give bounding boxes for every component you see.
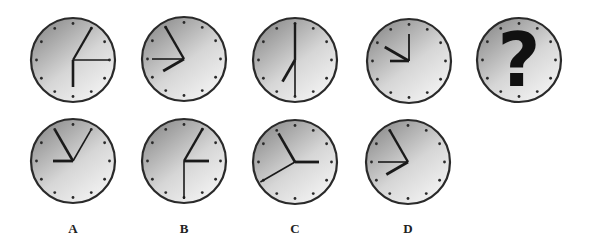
hour-tick bbox=[325, 179, 328, 182]
hour-tick bbox=[486, 40, 489, 43]
hour-tick bbox=[518, 22, 521, 25]
hour-tick bbox=[151, 141, 154, 144]
hour-tick bbox=[312, 129, 315, 132]
hour-tick bbox=[536, 27, 539, 30]
hour-tick bbox=[325, 40, 328, 43]
option-label-c[interactable]: C bbox=[280, 221, 310, 237]
hour-tick bbox=[201, 191, 204, 194]
hour-tick bbox=[408, 96, 411, 99]
hour-tick bbox=[407, 124, 410, 127]
hour-tick bbox=[151, 76, 154, 79]
clock-face-icon bbox=[139, 116, 229, 206]
hour-tick bbox=[201, 26, 204, 29]
hour-tick bbox=[443, 161, 446, 164]
clock-face-icon bbox=[250, 117, 340, 207]
hour-tick bbox=[257, 161, 260, 164]
hour-tick bbox=[549, 77, 552, 80]
hour-tick bbox=[376, 41, 379, 44]
hour-tick bbox=[257, 59, 260, 62]
hour-tick bbox=[275, 192, 278, 195]
hour-tick bbox=[408, 23, 411, 26]
sequence-clock-2 bbox=[139, 14, 229, 104]
hour-tick bbox=[72, 95, 75, 98]
hour-tick bbox=[375, 179, 378, 182]
hour-tick bbox=[371, 60, 374, 63]
hour-tick bbox=[312, 90, 315, 93]
hour-tick bbox=[72, 123, 75, 126]
hour-tick bbox=[439, 41, 442, 44]
option-clock-c[interactable] bbox=[250, 117, 340, 207]
hour-tick bbox=[183, 21, 186, 24]
hour-tick bbox=[275, 27, 278, 30]
hour-tick bbox=[486, 77, 489, 80]
hour-tick bbox=[425, 192, 428, 195]
hour-tick bbox=[389, 91, 392, 94]
hour-tick bbox=[40, 77, 43, 80]
option-clock-a[interactable] bbox=[28, 116, 118, 206]
hour-tick bbox=[262, 77, 265, 80]
hour-tick bbox=[183, 123, 186, 126]
hour-tick bbox=[35, 59, 38, 62]
hour-tick bbox=[146, 160, 149, 163]
hour-tick bbox=[72, 22, 75, 25]
hour-tick bbox=[294, 197, 297, 200]
hour-tick bbox=[376, 78, 379, 81]
hour-tick bbox=[214, 76, 217, 79]
hour-tick bbox=[219, 160, 222, 163]
hour-tick bbox=[40, 141, 43, 144]
option-label-d[interactable]: D bbox=[393, 221, 423, 237]
hour-tick bbox=[426, 91, 429, 94]
hour-tick bbox=[164, 128, 167, 131]
clock-face-icon bbox=[28, 15, 118, 105]
hour-tick bbox=[214, 39, 217, 42]
hour-tick bbox=[35, 160, 38, 163]
hour-tick bbox=[438, 179, 441, 182]
hour-tick bbox=[388, 192, 391, 195]
hour-tick bbox=[103, 141, 106, 144]
hour-tick bbox=[312, 27, 315, 30]
hour-tick bbox=[103, 77, 106, 80]
hour-tick bbox=[151, 178, 154, 181]
hour-tick bbox=[108, 160, 111, 163]
hour-tick bbox=[219, 58, 222, 61]
hour-tick bbox=[151, 39, 154, 42]
hour-tick bbox=[72, 196, 75, 199]
hour-tick bbox=[312, 192, 315, 195]
hour-tick bbox=[275, 90, 278, 93]
hour-tick bbox=[164, 89, 167, 92]
hour-tick bbox=[40, 40, 43, 43]
clock-face-icon bbox=[28, 116, 118, 206]
hour-tick bbox=[549, 40, 552, 43]
hour-tick bbox=[330, 161, 333, 164]
hour-tick bbox=[53, 191, 56, 194]
hour-tick bbox=[53, 27, 56, 30]
option-clock-d[interactable] bbox=[363, 117, 453, 207]
hour-tick bbox=[325, 77, 328, 80]
hour-tick bbox=[40, 178, 43, 181]
hour-tick bbox=[407, 197, 410, 200]
option-label-a[interactable]: A bbox=[58, 221, 88, 237]
clock-face-icon bbox=[364, 16, 454, 106]
hour-tick bbox=[554, 59, 557, 62]
option-label-b[interactable]: B bbox=[169, 221, 199, 237]
sequence-clock-3 bbox=[250, 15, 340, 105]
clock-face-icon bbox=[139, 14, 229, 104]
hour-tick bbox=[370, 161, 373, 164]
sequence-clock-4 bbox=[364, 16, 454, 106]
hour-tick bbox=[438, 142, 441, 145]
hour-tick bbox=[164, 191, 167, 194]
hour-tick bbox=[262, 142, 265, 145]
clock-face-icon bbox=[250, 15, 340, 105]
option-clock-b[interactable] bbox=[139, 116, 229, 206]
hour-tick bbox=[183, 94, 186, 97]
hour-tick bbox=[481, 59, 484, 62]
hour-tick bbox=[518, 95, 521, 98]
hour-tick bbox=[214, 178, 217, 181]
hour-tick bbox=[214, 141, 217, 144]
hour-tick bbox=[103, 40, 106, 43]
hour-tick bbox=[536, 90, 539, 93]
hour-tick bbox=[275, 129, 278, 132]
sequence-clock-1 bbox=[28, 15, 118, 105]
hour-tick bbox=[499, 90, 502, 93]
sequence-clock-unknown: ? bbox=[474, 15, 564, 105]
